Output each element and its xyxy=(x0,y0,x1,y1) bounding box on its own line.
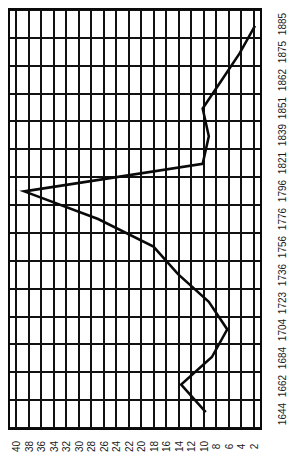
value-axis-tick-label: 28 xyxy=(85,438,98,456)
value-axis-tick-label: 38 xyxy=(22,438,35,456)
value-axis-tick-label: 10 xyxy=(197,438,210,456)
value-axis-tick-label: 34 xyxy=(47,438,60,456)
value-axis-tick-label: 30 xyxy=(72,438,85,456)
value-axis-tick-label: 24 xyxy=(110,438,123,456)
value-axis-tick-label: 20 xyxy=(135,438,148,456)
value-axis-tick-label: 12 xyxy=(185,438,198,456)
line-chart: 1885187518621851183918211796177617561736… xyxy=(0,0,303,463)
value-axis-tick-label: 40 xyxy=(10,438,23,456)
value-axis-tick-label: 16 xyxy=(160,438,173,456)
value-axis-tick-label: 6 xyxy=(222,438,235,456)
year-axis: 1885187518621851183918211796177617561736… xyxy=(263,8,303,430)
value-axis-tick-label: 14 xyxy=(172,438,185,456)
value-axis-tick-label: 18 xyxy=(147,438,160,456)
value-axis-tick-label: 22 xyxy=(122,438,135,456)
value-axis-tick-label: 2 xyxy=(247,438,260,456)
year-axis-tick-label: 1644 xyxy=(276,394,290,434)
value-axis-tick-label: 32 xyxy=(60,438,73,456)
data-series-line xyxy=(24,26,255,412)
value-axis-tick-label: 4 xyxy=(235,438,248,456)
plot-area xyxy=(8,8,262,430)
value-axis-tick-label: 36 xyxy=(35,438,48,456)
value-axis-tick-label: 26 xyxy=(97,438,110,456)
value-axis: 403836343230282624222018161412108642 xyxy=(8,431,262,463)
value-axis-tick-label: 8 xyxy=(210,438,223,456)
data-line-svg xyxy=(10,10,260,428)
